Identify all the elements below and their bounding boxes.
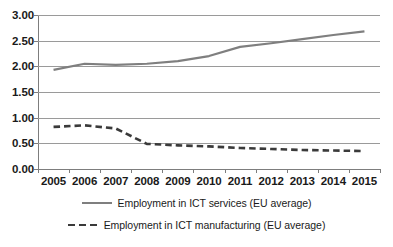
legend-label: Employment in ICT manufacturing (EU aver…	[104, 219, 326, 232]
chart-legend: Employment in ICT services (EU average) …	[0, 194, 393, 238]
line-chart: 3.002.502.001.501.000.500.00 20052006200…	[0, 0, 393, 247]
legend-swatch-solid-icon	[82, 197, 112, 209]
legend-item-ict-services[interactable]: Employment in ICT services (EU average)	[0, 194, 393, 212]
legend-item-ict-manufacturing[interactable]: Employment in ICT manufacturing (EU aver…	[0, 216, 393, 234]
x-axis-labels: 2005200620072008200920102011201220132014…	[38, 175, 380, 191]
legend-swatch-dashed-icon	[68, 219, 98, 231]
legend-label: Employment in ICT services (EU average)	[118, 197, 312, 210]
x-axis-tick-label: 2015	[344, 175, 384, 188]
series-line	[54, 31, 365, 70]
series-line	[54, 125, 365, 151]
